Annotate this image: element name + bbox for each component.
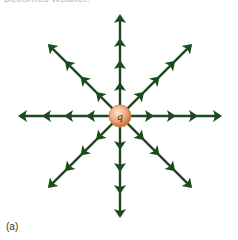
panel-label: (a) [6,221,18,232]
electric-field-diagram: q [0,0,238,240]
point-charge: q [109,105,131,127]
charge-label: q [117,111,123,122]
